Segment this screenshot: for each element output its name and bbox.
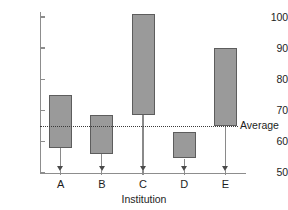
x-axis-title: Institution: [0, 193, 288, 205]
y-tick-label-60: 60: [254, 136, 288, 146]
bar-B: [90, 115, 113, 154]
y-tick-label-50: 50: [254, 167, 288, 177]
y-tick-50: [40, 172, 45, 173]
y-tick-70: [40, 110, 45, 111]
x-category-label-A: A: [46, 178, 76, 190]
plot-area: 5060708090100 ABCDE Average Institution: [0, 0, 288, 210]
y-tick-label-70: 70: [254, 105, 288, 115]
x-category-label-E: E: [210, 178, 240, 190]
y-tick-label-90: 90: [254, 43, 288, 53]
y-tick-90: [40, 47, 45, 48]
y-tick-80: [40, 79, 45, 80]
drop-line-E: [225, 126, 226, 169]
range-bar-chart: 5060708090100 ABCDE Average Institution: [0, 0, 288, 210]
y-tick-label-80: 80: [254, 74, 288, 84]
x-category-label-D: D: [169, 178, 199, 190]
x-category-label-C: C: [128, 178, 158, 190]
x-category-label-B: B: [87, 178, 117, 190]
bar-C: [132, 14, 155, 115]
y-tick-100: [40, 16, 45, 17]
x-tick-D: [184, 170, 185, 175]
x-tick-B: [101, 170, 102, 175]
drop-line-C: [142, 115, 143, 169]
y-tick-label-100: 100: [254, 12, 288, 22]
x-tick-A: [60, 170, 61, 175]
x-tick-E: [225, 170, 226, 175]
average-line-label: Average: [240, 120, 279, 131]
x-tick-C: [142, 170, 143, 175]
average-reference-line: [40, 126, 238, 127]
bar-A: [49, 95, 72, 148]
bar-E: [214, 48, 237, 126]
y-axis-line: [40, 12, 41, 174]
y-tick-60: [40, 141, 45, 142]
bar-D: [173, 132, 196, 158]
